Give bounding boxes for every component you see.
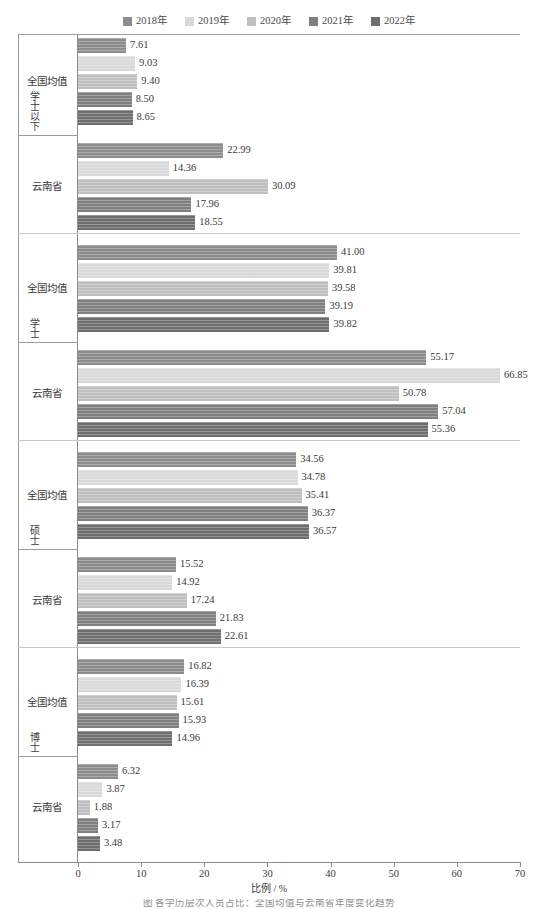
bar[interactable] <box>78 179 268 194</box>
bar[interactable] <box>78 38 126 53</box>
bar-row[interactable]: 16.82 <box>78 659 212 674</box>
bar-row[interactable]: 1.88 <box>78 800 112 815</box>
bar-row[interactable]: 55.17 <box>78 350 454 365</box>
subgroup-label: 全国均值 <box>20 283 74 295</box>
bar-row[interactable]: 55.36 <box>78 422 455 437</box>
bar-row[interactable]: 17.96 <box>78 197 219 212</box>
bar-row[interactable]: 22.99 <box>78 143 251 158</box>
bar-row[interactable]: 8.65 <box>78 110 155 125</box>
bar-row[interactable]: 57.04 <box>78 404 466 419</box>
bar[interactable] <box>78 695 177 710</box>
bar-value-label: 14.96 <box>176 733 200 744</box>
bar[interactable] <box>78 299 325 314</box>
bar-subgroup: 全国均值41.0039.8139.5839.1939.82 <box>0 245 538 335</box>
bar[interactable] <box>78 488 302 503</box>
bar-row[interactable]: 3.48 <box>78 836 122 851</box>
bar[interactable] <box>78 764 118 779</box>
bar[interactable] <box>78 197 191 212</box>
bar[interactable] <box>78 452 296 467</box>
bar[interactable] <box>78 56 135 71</box>
bar[interactable] <box>78 713 179 728</box>
bar[interactable] <box>78 161 169 176</box>
bar[interactable] <box>78 215 195 230</box>
bar[interactable] <box>78 317 329 332</box>
bar-row[interactable]: 9.03 <box>78 56 157 71</box>
bar[interactable] <box>78 92 132 107</box>
bar[interactable] <box>78 677 181 692</box>
x-axis-tick-label: 40 <box>325 869 336 880</box>
bar[interactable] <box>78 263 329 278</box>
bar[interactable] <box>78 731 172 746</box>
bar[interactable] <box>78 575 172 590</box>
bar-row[interactable]: 22.61 <box>78 629 248 644</box>
bar-row[interactable]: 34.56 <box>78 452 324 467</box>
bar[interactable] <box>78 611 216 626</box>
bar-subgroup: 云南省15.5214.9217.2421.8322.61 <box>0 557 538 647</box>
legend-item[interactable]: 2019年 <box>185 16 229 27</box>
bar-row[interactable]: 15.61 <box>78 695 204 710</box>
bar-row[interactable]: 50.78 <box>78 386 426 401</box>
bar[interactable] <box>78 245 337 260</box>
legend-item[interactable]: 2021年 <box>309 16 353 27</box>
bar-row[interactable]: 36.57 <box>78 524 337 539</box>
bar[interactable] <box>78 350 426 365</box>
bar[interactable] <box>78 800 90 815</box>
bar-row[interactable]: 9.40 <box>78 74 160 89</box>
bar[interactable] <box>78 593 187 608</box>
legend-item[interactable]: 2022年 <box>371 16 415 27</box>
bar-row[interactable]: 36.37 <box>78 506 335 521</box>
bar[interactable] <box>78 470 298 485</box>
bar-row[interactable]: 18.55 <box>78 215 223 230</box>
legend-item[interactable]: 2018年 <box>123 16 167 27</box>
bar[interactable] <box>78 629 221 644</box>
bar[interactable] <box>78 281 328 296</box>
bar-row[interactable]: 35.41 <box>78 488 329 503</box>
bar-row[interactable]: 39.81 <box>78 263 357 278</box>
bar-row[interactable]: 6.32 <box>78 764 140 779</box>
bar[interactable] <box>78 506 308 521</box>
bar-value-label: 17.96 <box>195 199 219 210</box>
bar-value-label: 17.24 <box>191 595 215 606</box>
bar[interactable] <box>78 422 428 437</box>
bar-row[interactable]: 14.36 <box>78 161 196 176</box>
bar[interactable] <box>78 782 102 797</box>
bar-row[interactable]: 14.96 <box>78 731 200 746</box>
bar[interactable] <box>78 368 500 383</box>
bar[interactable] <box>78 143 223 158</box>
bar-row[interactable]: 8.50 <box>78 92 154 107</box>
bar-row[interactable]: 17.24 <box>78 593 214 608</box>
bar-row[interactable]: 16.39 <box>78 677 209 692</box>
bar[interactable] <box>78 659 184 674</box>
x-axis-tick <box>78 862 79 867</box>
bar-row[interactable]: 3.87 <box>78 782 125 797</box>
bar-value-label: 55.36 <box>432 424 456 435</box>
bar-row[interactable]: 39.19 <box>78 299 353 314</box>
bar-row[interactable]: 15.52 <box>78 557 204 572</box>
bar-row[interactable]: 41.00 <box>78 245 365 260</box>
bar-row[interactable]: 3.17 <box>78 818 120 833</box>
bar-row[interactable]: 39.58 <box>78 281 356 296</box>
bar-value-label: 7.61 <box>130 40 148 51</box>
group-separator <box>18 342 78 343</box>
legend-item[interactable]: 2020年 <box>247 16 291 27</box>
bar-row[interactable]: 7.61 <box>78 38 148 53</box>
bar-group: 全国均值7.619.039.408.508.65云南省22.9914.3630.… <box>0 38 538 238</box>
bar[interactable] <box>78 386 399 401</box>
bar[interactable] <box>78 524 309 539</box>
bar[interactable] <box>78 836 100 851</box>
bar[interactable] <box>78 110 133 125</box>
bar-row[interactable]: 66.85 <box>78 368 528 383</box>
bar-row[interactable]: 39.82 <box>78 317 357 332</box>
bar-row[interactable]: 34.78 <box>78 470 325 485</box>
bar-row[interactable]: 14.92 <box>78 575 200 590</box>
group-axis-label: 学士以下 <box>18 91 38 131</box>
bar-subgroup: 全国均值7.619.039.408.508.65 <box>0 38 538 128</box>
bar[interactable] <box>78 818 98 833</box>
bar[interactable] <box>78 74 137 89</box>
bar[interactable] <box>78 557 176 572</box>
bar[interactable] <box>78 404 438 419</box>
bar-row[interactable]: 21.83 <box>78 611 243 626</box>
bar-value-label: 6.32 <box>122 766 140 777</box>
bar-row[interactable]: 15.93 <box>78 713 206 728</box>
bar-row[interactable]: 30.09 <box>78 179 296 194</box>
